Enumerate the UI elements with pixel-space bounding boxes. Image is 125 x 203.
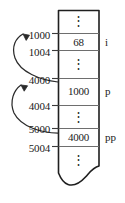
cell-gap2-ellipsis: ⋮ xyxy=(58,112,99,122)
address-label-4004: 4004 xyxy=(16,101,50,112)
cell-value-pp: 4000 xyxy=(58,132,99,143)
address-label-5000: 5000 xyxy=(16,124,50,135)
cell-value-p: 1000 xyxy=(58,86,99,97)
variable-label-p: p xyxy=(105,86,111,97)
cell-bottom-ellipsis: ⋮ xyxy=(58,155,99,165)
variable-label-pp: pp xyxy=(105,132,116,143)
cell-top-ellipsis: ⋮ xyxy=(58,16,99,26)
address-label-1000: 1000 xyxy=(16,30,50,41)
address-label-4000: 4000 xyxy=(16,75,50,86)
memory-layout-figure: 1000 1004 4000 4004 5000 5004 ⋮ 68 ⋮ 100… xyxy=(0,0,125,203)
variable-label-i: i xyxy=(105,37,108,48)
address-label-5004: 5004 xyxy=(16,143,50,154)
address-label-1004: 1004 xyxy=(16,47,50,58)
cell-value-i: 68 xyxy=(58,37,99,48)
cell-gap1-ellipsis: ⋮ xyxy=(58,59,99,69)
